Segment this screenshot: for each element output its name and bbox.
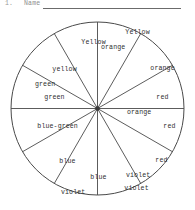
worksheet-header: 1. Name <box>0 0 195 14</box>
sector-label-blue-green: blue-green <box>13 115 78 138</box>
sector-label-yellow: Yellow <box>57 31 106 54</box>
sector-label-blue-line1: blue <box>59 158 75 165</box>
question-number: 1. <box>5 0 13 7</box>
sector-label-blue-violet-line2: violet <box>61 189 107 197</box>
sector-label-yellow-green-line1: yellow <box>52 66 76 73</box>
sector-label-blue-violet-line1: blue <box>85 174 106 181</box>
sector-label-yellow-green: yellow green <box>28 58 77 104</box>
sector-label-yellow-orange-line1: Yellow <box>125 29 149 36</box>
sector-label-violet: violet <box>100 177 149 200</box>
name-blank-line[interactable] <box>43 8 181 9</box>
sector-label-red: red <box>139 115 176 138</box>
sector-label-violet-line1: violet <box>124 185 148 192</box>
sector-label-red-orange-line1: red <box>151 94 168 101</box>
sector-label-yellow-orange-line2: orange <box>101 44 150 52</box>
sector-label-yellow-green-line2: green <box>28 81 77 89</box>
worksheet-page: 1. Name Yellow orange orange <box>0 0 195 210</box>
sector-label-red-line1: red <box>163 123 175 130</box>
sector-label-yellow-line1: Yellow <box>81 39 105 46</box>
sector-label-blue: blue <box>35 150 76 173</box>
wheel-center-hub <box>95 106 99 110</box>
sector-label-red-violet-line1: red <box>150 157 167 164</box>
name-label: Name <box>24 0 40 7</box>
sector-label-blue-green-line1: blue-green <box>37 123 78 130</box>
sector-label-orange-line1: orange <box>150 65 174 72</box>
color-wheel-figure: Yellow orange orange red orange red red … <box>0 14 195 210</box>
sector-label-orange: orange <box>126 57 175 80</box>
